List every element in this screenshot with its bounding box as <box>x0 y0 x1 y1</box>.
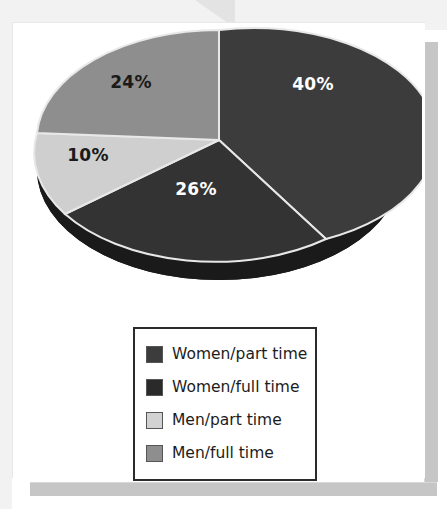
legend-item-women-full-time[interactable]: Women/full time <box>146 371 305 404</box>
legend-label: Men/full time <box>172 446 274 462</box>
page-left-margin <box>0 0 12 509</box>
legend-swatch-icon <box>146 445 163 462</box>
pie-label-men-full-time: 24% <box>110 72 151 92</box>
legend-swatch-icon <box>146 412 163 429</box>
chart-legend: Women/part time Women/full time Men/part… <box>133 327 317 481</box>
pie-chart-svg: 40% 26% 10% 24% <box>18 18 422 308</box>
chart-page: 40% 26% 10% 24% Women/part time Women/fu… <box>0 0 447 509</box>
page-shadow-right <box>424 42 438 482</box>
pie-label-women-full-time: 26% <box>175 179 216 199</box>
legend-label: Women/full time <box>172 380 299 396</box>
pie-label-women-part-time: 40% <box>292 74 333 94</box>
legend-swatch-icon <box>146 379 163 396</box>
legend-label: Women/part time <box>172 347 307 363</box>
pie-label-men-part-time: 10% <box>67 145 108 165</box>
legend-item-men-part-time[interactable]: Men/part time <box>146 404 305 437</box>
page-shadow-bottom <box>30 482 437 496</box>
legend-item-women-part-time[interactable]: Women/part time <box>146 338 305 371</box>
pie-chart: 40% 26% 10% 24% <box>18 18 422 308</box>
legend-label: Men/part time <box>172 413 282 429</box>
legend-swatch-icon <box>146 346 163 363</box>
legend-item-men-full-time[interactable]: Men/full time <box>146 437 305 470</box>
